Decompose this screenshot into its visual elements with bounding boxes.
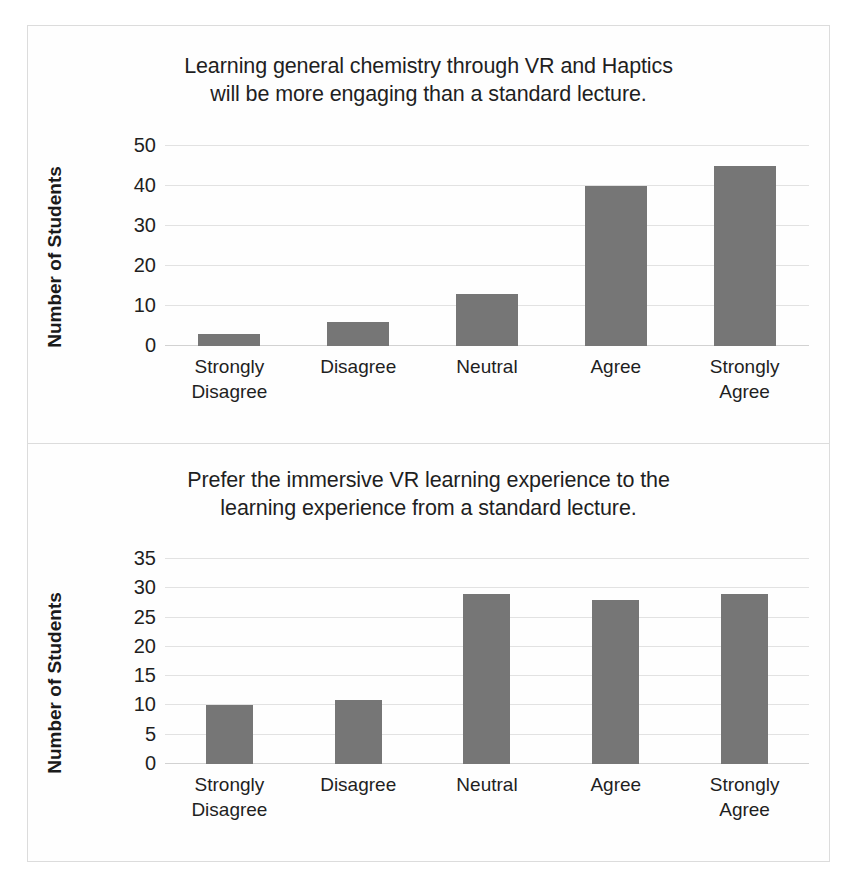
x-axis-tick-label: Neutral	[423, 772, 552, 822]
x-axis-tick-label: StronglyAgree	[680, 354, 809, 404]
bar-slot	[165, 146, 294, 346]
x-axis-tick-label: Agree	[551, 772, 680, 822]
bar-slot	[680, 146, 809, 346]
y-axis-tick-label: 50	[134, 134, 156, 157]
y-axis-tick-label: 40	[134, 174, 156, 197]
y-axis-tick-label: 20	[134, 254, 156, 277]
bar-slot	[680, 559, 809, 764]
chart-panel-engagement: Learning general chemistry through VR an…	[28, 26, 829, 444]
bar	[585, 186, 647, 346]
y-axis-tick-label: 35	[134, 547, 156, 570]
bar	[714, 166, 776, 346]
bar	[463, 594, 510, 764]
bar	[721, 594, 768, 764]
bar-slot	[294, 559, 423, 764]
chart-title: Learning general chemistry through VR an…	[28, 52, 829, 108]
bar-slot	[551, 146, 680, 346]
plot-area: 01020304050 StronglyDisagreeDisagreeNeut…	[165, 146, 809, 346]
x-axis-labels: StronglyDisagreeDisagreeNeutralAgreeStro…	[165, 354, 809, 404]
x-axis-tick-label: StronglyAgree	[680, 772, 809, 822]
bar-slot	[423, 559, 552, 764]
x-axis-tick-label: StronglyDisagree	[165, 772, 294, 822]
bar	[198, 334, 260, 346]
bar	[456, 294, 518, 346]
x-axis-labels: StronglyDisagreeDisagreeNeutralAgreeStro…	[165, 772, 809, 822]
y-axis-tick-label: 25	[134, 605, 156, 628]
bar	[335, 700, 382, 764]
x-axis-tick-label: Agree	[551, 354, 680, 404]
bar-series	[165, 146, 809, 346]
bar-slot	[551, 559, 680, 764]
chart-title-line1: Learning general chemistry through VR an…	[28, 52, 829, 80]
x-axis-tick-label: Disagree	[294, 772, 423, 822]
figure-container: Learning general chemistry through VR an…	[27, 25, 830, 862]
y-axis-tick-label: 15	[134, 664, 156, 687]
chart-title-line1: Prefer the immersive VR learning experie…	[28, 466, 829, 494]
y-axis-tick-label: 20	[134, 634, 156, 657]
bar	[327, 322, 389, 346]
y-axis-tick-label: 5	[145, 722, 156, 745]
x-axis-tick-label: Disagree	[294, 354, 423, 404]
y-axis-tick-label: 30	[134, 576, 156, 599]
bar	[206, 705, 253, 764]
chart-title-line2: will be more engaging than a standard le…	[28, 80, 829, 108]
bar-series	[165, 559, 809, 764]
y-axis-tick-label: 0	[145, 334, 156, 357]
y-axis-tick-label: 0	[145, 752, 156, 775]
bar-slot	[423, 146, 552, 346]
y-axis-label: Number of Students	[44, 583, 66, 783]
y-axis-tick-label: 30	[134, 214, 156, 237]
x-axis-tick-label: StronglyDisagree	[165, 354, 294, 404]
chart-panel-preference: Prefer the immersive VR learning experie…	[28, 444, 829, 862]
bar-slot	[165, 559, 294, 764]
y-axis-label: Number of Students	[44, 157, 66, 357]
bar-slot	[294, 146, 423, 346]
x-axis-tick-label: Neutral	[423, 354, 552, 404]
y-axis-tick-label: 10	[134, 294, 156, 317]
chart-title: Prefer the immersive VR learning experie…	[28, 466, 829, 522]
y-axis-tick-label: 10	[134, 693, 156, 716]
plot-area: 05101520253035 StronglyDisagreeDisagreeN…	[165, 559, 809, 764]
chart-title-line2: learning experience from a standard lect…	[28, 494, 829, 522]
bar	[592, 600, 639, 764]
